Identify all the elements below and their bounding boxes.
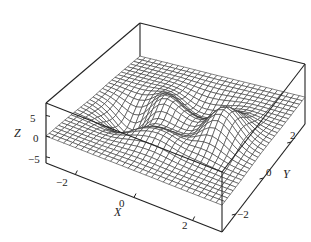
z-axis-label: Z [14,126,21,140]
surface-plot: 5 0 −5 Z −2 0 2 X −2 0 2 Y [0,0,311,242]
z-tick-5: 5 [30,112,36,124]
x-tick-2: 2 [182,219,188,231]
z-tick-minus5: −5 [28,153,40,165]
y-tick-2: 2 [290,129,296,141]
x-tick-minus2: −2 [56,176,68,188]
z-tick-0: 0 [33,132,39,144]
x-axis-label: X [113,205,122,219]
y-tick-minus2: −2 [237,208,249,220]
box-edge [140,23,305,64]
y-tick-0: 0 [266,166,272,178]
surface-mesh [46,56,305,205]
y-axis-label: Y [283,167,291,181]
